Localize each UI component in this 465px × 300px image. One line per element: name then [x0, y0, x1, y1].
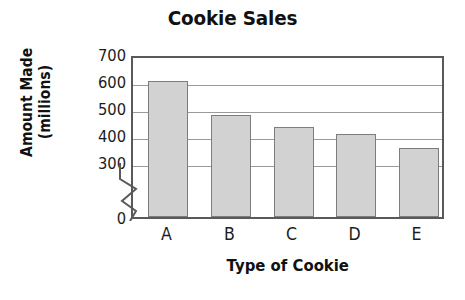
x-tick-label-b: B [200, 224, 259, 244]
x-tick-label-a: A [137, 224, 196, 244]
plot-area [131, 56, 444, 219]
x-axis-title-text: Type of Cookie [226, 256, 348, 275]
bar-d [336, 134, 376, 217]
x-tick-label-e: E [387, 224, 446, 244]
bar-a [148, 81, 188, 217]
y-tick-label: 600 [86, 73, 126, 92]
y-tick-label: 400 [86, 127, 126, 146]
bar-e [399, 148, 439, 217]
bar-c [274, 127, 314, 217]
x-tick-label-c: C [262, 224, 321, 244]
x-tick-label-d: D [325, 224, 384, 244]
y-axis-title-line-1: Amount Made [18, 47, 36, 156]
y-tick-label: 700 [86, 46, 126, 65]
x-axis-tick-labels: ABCDE [131, 224, 444, 250]
cookie-sales-bar-chart: Cookie Sales Amount Made (millions) 7006… [0, 0, 465, 300]
axis-break-zigzag-icon [118, 163, 140, 221]
y-axis-title-line-2: (millions) [36, 65, 54, 139]
bar-b [211, 115, 251, 217]
y-axis-title: Amount Made (millions) [14, 17, 58, 187]
y-axis-tick-labels: 7006005004003000 [78, 0, 126, 300]
x-axis-title: Type of Cookie [131, 256, 444, 275]
y-tick-label: 500 [86, 100, 126, 119]
